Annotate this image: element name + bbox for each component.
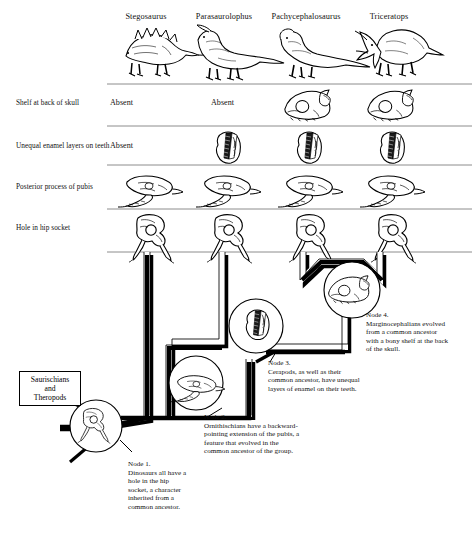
node-2-line-4: common ancestor of the group. bbox=[204, 447, 364, 456]
node-4-heading: Node 4. bbox=[366, 311, 474, 320]
node-1-caption: Node 1. Dinosaurs all have a hole in the… bbox=[128, 460, 238, 512]
cell-text-shelf-parasaurolophus: Absent bbox=[211, 98, 234, 107]
column-header-pachycephalosaurus: Pachycephalosaurus bbox=[255, 12, 357, 21]
node-1-line-4: inherited from a bbox=[128, 494, 238, 503]
cell-text-enamel-stegosaurus: Absent bbox=[110, 141, 133, 150]
node-1-line-5: common ancestor. bbox=[128, 503, 238, 512]
node-1-line-1: Dinosaurs all have a bbox=[128, 469, 238, 478]
node-1-line-3: socket, a character bbox=[128, 486, 238, 495]
node-3-line-2: common ancestor, have unequal bbox=[268, 376, 418, 385]
outgroup-line-3: Theropods bbox=[20, 393, 80, 402]
dino-illustration-pachycephalosaurus bbox=[280, 29, 370, 78]
row-label-hole-in-hip-socket: Hole in hip socket bbox=[16, 223, 70, 232]
node-callout-2[interactable] bbox=[169, 356, 225, 410]
node-1-heading: Node 1. bbox=[128, 460, 238, 469]
outgroup-line-2: and bbox=[20, 384, 80, 393]
node-callout-4[interactable] bbox=[324, 262, 380, 318]
cell-icon-pubis-pachycephalosaurus bbox=[278, 176, 343, 207]
figure-canvas: Stegosaurus Parasaurolophus Pachycephalo… bbox=[0, 0, 474, 543]
node-3-caption: Node 3. Cerapods, as well as their commo… bbox=[268, 359, 418, 393]
node-callout-1[interactable] bbox=[70, 400, 122, 452]
cell-icon-hip-parasaurolophus bbox=[207, 215, 252, 263]
outgroup-box[interactable]: Saurischians and Theropods bbox=[19, 371, 81, 406]
cell-icon-pubis-triceratops bbox=[360, 176, 425, 207]
dino-illustration-parasaurolophus bbox=[197, 25, 284, 80]
row-label-shelf-at-back-of-skull: Shelf at back of skull bbox=[16, 98, 79, 107]
cell-icon-skull-triceratops bbox=[368, 90, 413, 121]
node-2-caption: Node 2. Ornithischians have a backward- … bbox=[204, 413, 364, 456]
row-label-unequal-enamel-layers-on-teeth: Unequal enamel layers on teeth bbox=[16, 141, 109, 150]
cell-icon-hip-pachycephalosaurus bbox=[289, 215, 334, 263]
cell-icon-tooth-triceratops bbox=[381, 132, 405, 163]
node-4-line-1: Marginocephalians evolved bbox=[366, 320, 474, 329]
node-3-line-1: Cerapods, as well as their bbox=[268, 368, 418, 377]
column-header-stegosaurus: Stegosaurus bbox=[104, 12, 188, 21]
node-3-heading: Node 3. bbox=[268, 359, 418, 368]
node-2-heading: Node 2. bbox=[204, 413, 364, 422]
node-2-line-2: pointing extension of the pubis, a bbox=[204, 430, 364, 439]
row-label-posterior-process-of-pubis: Posterior process of pubis bbox=[16, 182, 93, 191]
cell-icon-tooth-pachycephalosaurus bbox=[298, 132, 322, 163]
cell-icon-tooth-parasaurolophus bbox=[217, 132, 241, 163]
node-4-caption: Node 4. Marginocephalians evolved from a… bbox=[366, 311, 474, 354]
cell-icon-pubis-stegosaurus bbox=[118, 176, 183, 207]
node-2-line-1: Ornithischians have a backward- bbox=[204, 422, 364, 431]
node-1-line-2: hole in the hip bbox=[128, 477, 238, 486]
node-2-line-3: feature that evolved in the bbox=[204, 439, 364, 448]
cell-text-shelf-stegosaurus: Absent bbox=[110, 98, 133, 107]
node-4-line-4: of the skull. bbox=[366, 345, 474, 354]
node-4-line-2: from a common ancestor bbox=[366, 328, 474, 337]
outgroup-line-1: Saurischians bbox=[20, 375, 80, 384]
node-callout-3[interactable] bbox=[229, 299, 283, 353]
node-4-line-3: with a bony shelf at the back bbox=[366, 337, 474, 346]
cell-icon-skull-pachycephalosaurus bbox=[285, 90, 330, 121]
dino-illustration-triceratops bbox=[355, 30, 443, 76]
column-header-triceratops: Triceratops bbox=[348, 12, 430, 21]
cell-icon-pubis-parasaurolophus bbox=[196, 176, 261, 207]
node-3-line-3: layers of enamel on their teeth. bbox=[268, 385, 418, 394]
